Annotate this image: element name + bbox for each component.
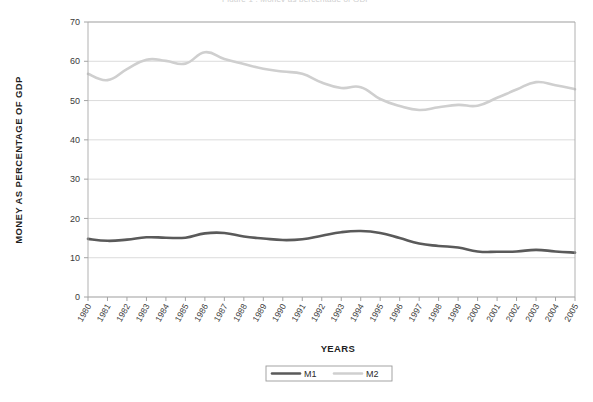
- x-tick-label: 1993: [328, 302, 346, 324]
- x-tick-label: 2003: [523, 302, 541, 324]
- x-tick-label: 1987: [211, 302, 229, 324]
- y-tick-label: 10: [70, 253, 80, 263]
- y-axis-ticks: 010203040506070: [70, 17, 80, 302]
- x-tick-label: 1980: [75, 302, 93, 324]
- legend-label-m2: M2: [366, 369, 379, 379]
- chart-legend: M1M2: [266, 366, 392, 381]
- x-tick-label: 2001: [484, 302, 502, 324]
- chart-container: Figure 1 : Money as percentage of GDP 01…: [0, 0, 593, 402]
- gridlines: [84, 22, 575, 297]
- x-tick-label: 1997: [406, 302, 424, 324]
- x-tick-label: 1995: [367, 302, 385, 324]
- plot-frame: [88, 22, 575, 297]
- x-tick-label: 1989: [250, 302, 268, 324]
- x-tick-label: 1990: [270, 302, 288, 324]
- y-tick-label: 60: [70, 56, 80, 66]
- x-tick-label: 1996: [387, 302, 405, 324]
- y-tick-label: 70: [70, 17, 80, 27]
- x-tick-label: 1988: [231, 302, 249, 324]
- legend-label-m1: M1: [304, 369, 317, 379]
- x-tick-label: 1986: [192, 302, 210, 324]
- y-tick-label: 20: [70, 214, 80, 224]
- y-tick-label: 40: [70, 135, 80, 145]
- y-axis-title: MONEY AS PERCENTAGE OF GDP: [13, 76, 24, 244]
- x-tick-label: 1982: [114, 302, 132, 324]
- y-tick-label: 0: [75, 292, 80, 302]
- x-tick-label: 1998: [426, 302, 444, 324]
- x-axis-title: YEARS: [321, 343, 356, 354]
- x-tick-label: 1994: [348, 302, 366, 324]
- x-tick-label: 1991: [289, 302, 307, 324]
- line-chart: 010203040506070 198019811982198319841985…: [0, 0, 593, 402]
- x-tick-label: 1984: [153, 302, 171, 324]
- x-tick-label: 2000: [465, 302, 483, 324]
- x-tick-label: 1999: [445, 302, 463, 324]
- x-tick-label: 1992: [309, 302, 327, 324]
- x-tick-label: 1983: [134, 302, 152, 324]
- series-line-m2: [88, 52, 575, 110]
- x-tick-label: 1981: [95, 302, 113, 324]
- data-series: [88, 52, 575, 252]
- y-tick-label: 50: [70, 96, 80, 106]
- x-tick-label: 2005: [562, 302, 580, 324]
- y-tick-label: 30: [70, 174, 80, 184]
- x-tick-label: 2002: [504, 302, 522, 324]
- x-tick-label: 1985: [173, 302, 191, 324]
- series-line-m1: [88, 231, 575, 253]
- x-axis-ticks: 1980198119821983198419851986198719881989…: [75, 297, 580, 323]
- x-tick-label: 2004: [543, 302, 561, 324]
